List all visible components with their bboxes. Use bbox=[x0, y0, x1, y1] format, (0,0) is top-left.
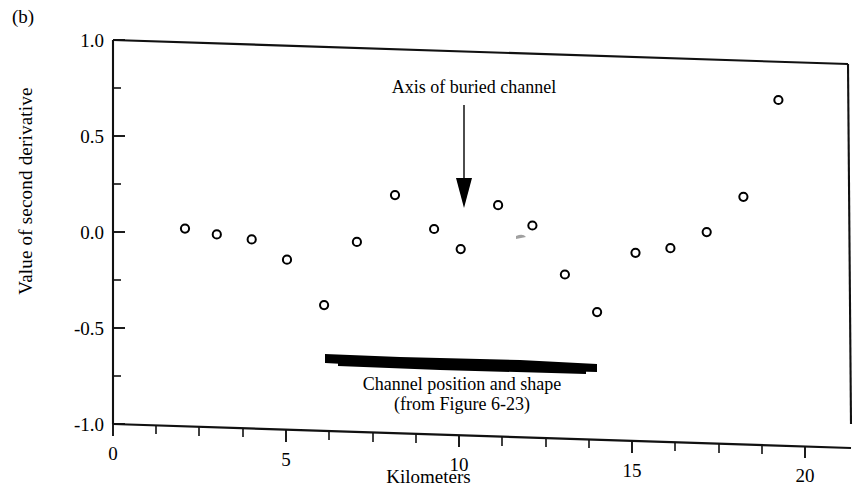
x-tick-label: 15 bbox=[623, 460, 642, 481]
channel-caption-line-2: (from Figure 6-23) bbox=[394, 394, 530, 415]
data-point bbox=[774, 96, 782, 104]
data-point bbox=[561, 270, 569, 278]
scan-artifact bbox=[516, 235, 526, 239]
x-axis-tick-labels: 0 5 10 15 20 bbox=[108, 443, 814, 486]
y-axis-ticks bbox=[113, 40, 125, 424]
data-point bbox=[703, 228, 711, 236]
figure-panel: (b) Value of second derivative Kilometer… bbox=[0, 0, 857, 498]
y-axis-tick-labels: 1.0 0.5 0.0 -0.5 -1.0 bbox=[74, 30, 104, 435]
data-point bbox=[631, 249, 639, 257]
buried-channel-arrow-icon bbox=[456, 105, 472, 208]
y-tick-label: 0.5 bbox=[80, 126, 104, 147]
data-point bbox=[283, 256, 291, 264]
data-point bbox=[494, 201, 502, 209]
data-point bbox=[593, 308, 601, 316]
channel-caption-line-1: Channel position and shape bbox=[363, 374, 561, 394]
y-tick-label: 0.0 bbox=[80, 222, 104, 243]
x-axis-ticks bbox=[113, 424, 805, 458]
x-tick-label: 20 bbox=[796, 465, 815, 486]
data-point-group bbox=[181, 96, 783, 316]
buried-channel-annotation-label: Axis of buried channel bbox=[392, 77, 556, 97]
data-point bbox=[320, 301, 328, 309]
y-tick-label: -1.0 bbox=[74, 414, 104, 435]
data-point bbox=[391, 191, 399, 199]
x-tick-label: 10 bbox=[450, 454, 469, 475]
data-point bbox=[528, 221, 536, 229]
x-tick-label: 5 bbox=[281, 449, 291, 470]
data-point bbox=[248, 235, 256, 243]
data-point bbox=[739, 193, 747, 201]
x-tick-label: 0 bbox=[108, 443, 118, 464]
data-point bbox=[181, 225, 189, 233]
plot-canvas: 1.0 0.5 0.0 -0.5 -1.0 0 bbox=[0, 0, 857, 498]
data-point bbox=[430, 225, 438, 233]
data-point bbox=[457, 245, 465, 253]
data-point bbox=[353, 238, 361, 246]
data-point bbox=[213, 230, 221, 238]
channel-shape-bar bbox=[325, 354, 597, 374]
y-tick-label: -0.5 bbox=[74, 318, 104, 339]
y-tick-label: 1.0 bbox=[80, 30, 104, 51]
data-point bbox=[666, 244, 674, 252]
